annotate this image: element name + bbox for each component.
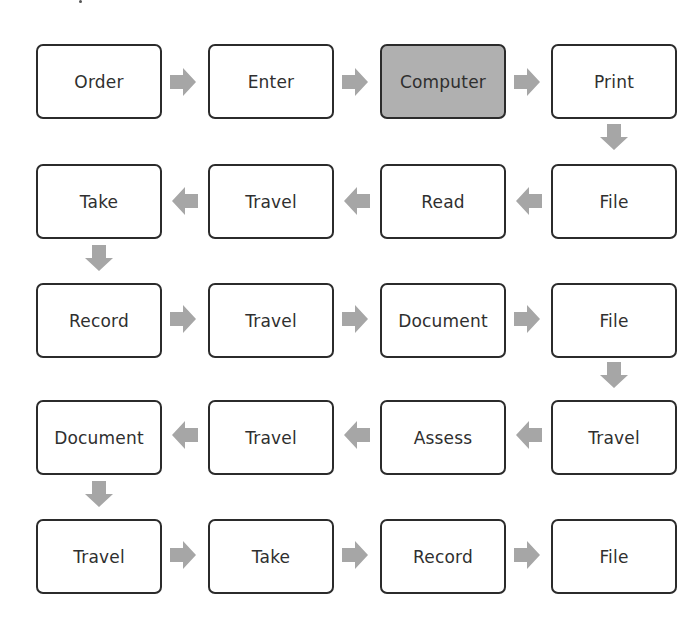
arrow-left-icon	[172, 421, 198, 449]
step-read: Read	[380, 164, 506, 239]
arrow-right-icon	[170, 541, 196, 569]
step-document: Document	[36, 400, 162, 475]
step-label: File	[599, 547, 628, 567]
arrow-down-icon	[85, 245, 113, 271]
step-travel: Travel	[551, 400, 677, 475]
step-label: Document	[54, 428, 144, 448]
step-label: Travel	[245, 428, 297, 448]
arrow-left-icon	[172, 187, 198, 215]
arrow-right-icon	[514, 68, 540, 96]
step-travel: Travel	[208, 283, 334, 358]
step-label: Record	[413, 547, 473, 567]
step-record: Record	[380, 519, 506, 594]
step-label: Take	[252, 547, 291, 567]
step-file: File	[551, 283, 677, 358]
step-label: Computer	[400, 72, 486, 92]
step-assess: Assess	[380, 400, 506, 475]
step-enter: Enter	[208, 44, 334, 119]
step-label: Order	[74, 72, 123, 92]
step-label: Take	[80, 192, 119, 212]
step-print: Print	[551, 44, 677, 119]
arrow-right-icon	[342, 541, 368, 569]
arrow-left-icon	[516, 421, 542, 449]
step-label: Read	[421, 192, 465, 212]
step-label: Assess	[414, 428, 473, 448]
arrow-left-icon	[516, 187, 542, 215]
step-take: Take	[36, 164, 162, 239]
step-file: File	[551, 519, 677, 594]
arrow-right-icon	[514, 541, 540, 569]
arrow-right-icon	[170, 305, 196, 333]
arrow-right-icon	[342, 305, 368, 333]
arrow-right-icon	[170, 68, 196, 96]
step-file: File	[551, 164, 677, 239]
step-label: Record	[69, 311, 129, 331]
step-label: Print	[594, 72, 634, 92]
arrow-left-icon	[344, 421, 370, 449]
arrow-left-icon	[344, 187, 370, 215]
step-record: Record	[36, 283, 162, 358]
step-label: Enter	[248, 72, 295, 92]
arrow-right-icon	[342, 68, 368, 96]
step-label: Travel	[73, 547, 125, 567]
step-order: Order	[36, 44, 162, 119]
step-take: Take	[208, 519, 334, 594]
step-label: Travel	[245, 311, 297, 331]
step-label: File	[599, 311, 628, 331]
step-travel: Travel	[208, 400, 334, 475]
arrow-down-icon	[600, 124, 628, 150]
arrow-down-icon	[600, 362, 628, 388]
step-label: Travel	[588, 428, 640, 448]
stray-mark	[79, 0, 82, 3]
arrow-right-icon	[514, 305, 540, 333]
step-label: Document	[398, 311, 488, 331]
step-label: Travel	[245, 192, 297, 212]
step-travel: Travel	[36, 519, 162, 594]
step-travel: Travel	[208, 164, 334, 239]
step-label: File	[599, 192, 628, 212]
arrow-down-icon	[85, 481, 113, 507]
step-document: Document	[380, 283, 506, 358]
step-computer-highlighted: Computer	[380, 44, 506, 119]
